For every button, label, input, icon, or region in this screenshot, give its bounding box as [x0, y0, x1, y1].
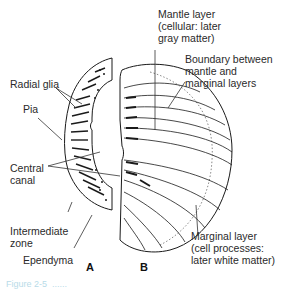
label-central-canal: Central canal — [10, 162, 44, 186]
panel-b-drawing — [120, 64, 232, 252]
label-intermediate-zone: Intermediate zone — [10, 225, 68, 249]
label-marginal-layer: Marginal layer (cell processes: later wh… — [191, 230, 275, 266]
label-mantle-layer: Mantle layer (cellular: later gray matte… — [158, 8, 221, 44]
panel-label-b: B — [140, 261, 148, 273]
leader-lines — [38, 50, 198, 248]
panel-label-a: A — [86, 261, 94, 273]
figure-caption: Figure 2-5 ...... — [6, 279, 67, 289]
panel-a-drawing — [65, 58, 112, 210]
label-radial-glia: Radial glia — [10, 78, 59, 90]
label-boundary: Boundary between mantle and marginal lay… — [185, 53, 273, 89]
label-pia: Pia — [23, 103, 38, 115]
label-ependyma: Ependyma — [23, 254, 73, 266]
